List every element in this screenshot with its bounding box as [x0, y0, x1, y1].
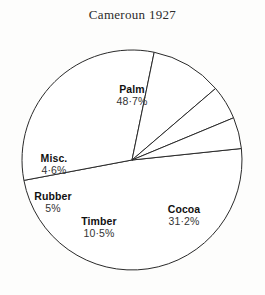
pie-slices [22, 50, 242, 270]
pie-graphic [0, 0, 265, 295]
pie-chart: Cameroun 1927 Palm 48·7% Cocoa 31·2% Tim… [0, 0, 265, 295]
